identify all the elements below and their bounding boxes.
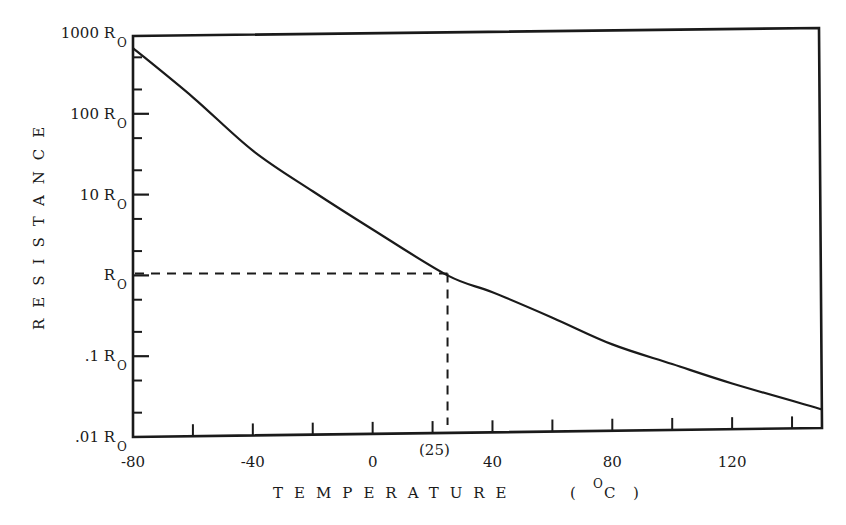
x-tick-label: 40 — [483, 453, 502, 471]
x-unit-open-paren: ( — [570, 484, 576, 502]
resistance-temperature-chart: 1000 RO100 RO10 RORO.1 RO.01 RO -80-4004… — [0, 0, 846, 525]
x-axis-title: TEMPERATURE — [273, 484, 518, 502]
x-tick-label: -40 — [241, 453, 265, 471]
y-tick-label: .01 R — [75, 428, 116, 446]
x-axis-ticks: -80-4004080120 — [121, 416, 792, 471]
degree-symbol: O — [593, 477, 603, 491]
plot-frame — [133, 28, 822, 437]
annotation-25c: (25) — [419, 441, 450, 459]
x-tick-label: 0 — [368, 453, 378, 471]
y-tick-label: R — [104, 266, 116, 284]
y-tick-subscript: O — [117, 198, 127, 212]
resistance-curve — [133, 48, 822, 409]
plot-border — [133, 28, 822, 437]
x-axis-unit: ( O C ) — [570, 477, 639, 502]
x-tick-label: 120 — [718, 453, 747, 471]
y-tick-subscript: O — [117, 359, 127, 373]
reference-dashed-lines — [135, 273, 448, 425]
y-tick-subscript: O — [117, 117, 127, 131]
x-unit-celsius: C — [604, 484, 615, 502]
y-tick-label: 10 R — [80, 186, 116, 204]
y-axis-title: RESISTANCE — [30, 116, 48, 330]
x-tick-label: -80 — [121, 453, 145, 471]
y-tick-subscript: O — [117, 36, 127, 50]
y-tick-label: 100 R — [70, 105, 115, 123]
y-tick-label: 1000 R — [61, 24, 116, 42]
y-tick-subscript: O — [117, 440, 127, 454]
x-unit-close-paren: ) — [633, 484, 639, 502]
y-tick-subscript: O — [117, 278, 127, 292]
y-axis-ticks: 1000 RO100 RO10 RORO.1 RO.01 RO — [61, 24, 149, 454]
y-tick-label: .1 R — [85, 347, 116, 365]
x-tick-label: 80 — [603, 453, 622, 471]
